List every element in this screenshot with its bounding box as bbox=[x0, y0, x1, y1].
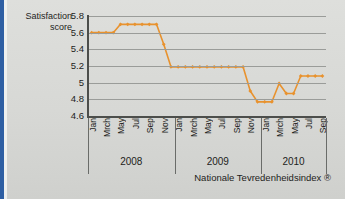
y-axis-tick-label: 4.6 bbox=[71, 111, 84, 120]
x-axis-tick-label: May bbox=[203, 118, 213, 134]
gridline bbox=[88, 49, 326, 50]
data-point-marker bbox=[306, 74, 310, 78]
data-point-marker bbox=[263, 100, 267, 104]
gridline bbox=[88, 83, 326, 84]
x-axis-tick-label: Nov bbox=[160, 118, 170, 133]
data-point-marker bbox=[320, 74, 324, 78]
gridline bbox=[88, 99, 326, 100]
data-point-marker bbox=[162, 42, 166, 46]
x-axis-year-label: 2008 bbox=[111, 156, 151, 167]
y-axis-tick-label: 5.4 bbox=[71, 44, 84, 53]
year-separator bbox=[326, 118, 327, 174]
accent-stripe-inner bbox=[4, 0, 7, 199]
data-point-marker bbox=[133, 22, 137, 26]
x-axis-tick-label: Sep bbox=[145, 118, 155, 133]
x-axis-tick-label: Nov bbox=[246, 118, 256, 133]
x-axis-month-labels: JanMrchMayJulSepNovJanMrchMayJulSepNovJa… bbox=[88, 118, 326, 160]
x-axis-tick-label: Jul bbox=[217, 118, 227, 129]
x-axis-tick-label: Jul bbox=[131, 118, 141, 129]
x-axis-tick-label: May bbox=[290, 118, 300, 134]
x-axis-tick-label: Mrch bbox=[102, 118, 112, 137]
year-separator bbox=[261, 118, 262, 174]
x-axis-tick-label: May bbox=[116, 118, 126, 134]
data-point-marker bbox=[313, 74, 317, 78]
x-axis-tick-label: Jan bbox=[88, 118, 98, 132]
x-axis-tick-label: Jul bbox=[304, 118, 314, 129]
data-point-marker bbox=[140, 22, 144, 26]
y-axis-tick-label: 5.8 bbox=[71, 11, 84, 20]
x-axis-tick-label: Jan bbox=[261, 118, 271, 132]
x-axis-year-labels: 200820092010 bbox=[88, 156, 326, 172]
plot-area bbox=[88, 16, 326, 116]
gridline bbox=[88, 66, 326, 67]
x-axis-tick-label: Jan bbox=[174, 118, 184, 132]
x-axis-year-label: 2010 bbox=[274, 156, 314, 167]
y-axis-tick-label: 5 bbox=[79, 78, 84, 87]
source-annotation: Nationale Tevredenheidsindex ® bbox=[0, 172, 331, 183]
y-axis-line bbox=[87, 15, 89, 117]
y-axis-tick-label: 5.2 bbox=[71, 61, 84, 70]
data-point-marker bbox=[126, 22, 130, 26]
y-axis-tick-label: 5.6 bbox=[71, 28, 84, 37]
x-axis-tick-label: Sep bbox=[232, 118, 242, 133]
y-axis-tick-label: 4.8 bbox=[71, 94, 84, 103]
year-separator bbox=[175, 118, 176, 174]
x-axis-tick-label: Mrch bbox=[275, 118, 285, 137]
year-separator bbox=[88, 118, 89, 174]
gridline bbox=[88, 16, 326, 17]
x-axis-tick-label: Mrch bbox=[189, 118, 199, 137]
x-axis-year-label: 2009 bbox=[198, 156, 238, 167]
series-line bbox=[92, 24, 323, 102]
data-point-marker bbox=[147, 22, 151, 26]
gridline bbox=[88, 33, 326, 34]
chart-figure: Satisfaction score 4.64.855.25.45.65.8 J… bbox=[0, 0, 345, 199]
y-axis-tick-labels: 4.64.855.25.45.65.8 bbox=[28, 0, 84, 199]
